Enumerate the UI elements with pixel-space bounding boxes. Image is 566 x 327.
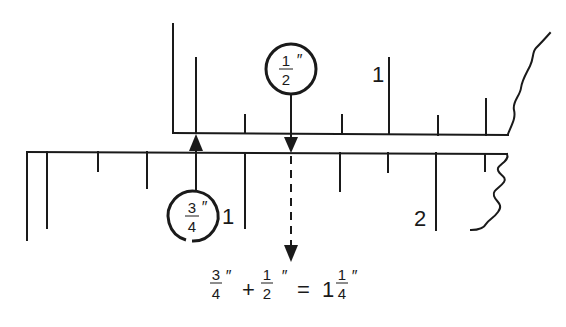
svg-text:3: 3 bbox=[188, 199, 196, 216]
svg-text:+: + bbox=[242, 277, 255, 302]
svg-text:4: 4 bbox=[188, 218, 196, 235]
dashed-result-arrow bbox=[284, 156, 298, 262]
svg-text:4: 4 bbox=[338, 285, 346, 302]
lower-ruler: 1 2 bbox=[27, 152, 508, 240]
arrow-down-icon bbox=[284, 137, 298, 153]
svg-text:1: 1 bbox=[338, 266, 346, 283]
three-quarter-callout: 3 4 ″ bbox=[168, 134, 218, 241]
arrow-up-icon bbox=[189, 134, 203, 151]
svg-text:4: 4 bbox=[212, 285, 220, 302]
svg-text:2: 2 bbox=[263, 285, 271, 302]
svg-text:″: ″ bbox=[281, 268, 288, 285]
upper-ruler: 1 bbox=[173, 24, 550, 135]
svg-text:2: 2 bbox=[282, 71, 290, 88]
upper-break-line bbox=[508, 33, 550, 134]
equation: 3 4 ″ + 1 2 ″ = 1 1 4 ″ bbox=[210, 266, 358, 302]
lower-label-1: 1 bbox=[222, 204, 234, 229]
svg-text:″: ″ bbox=[351, 268, 358, 285]
svg-text:=: = bbox=[297, 277, 310, 302]
lower-label-2: 2 bbox=[414, 206, 426, 231]
svg-text:1: 1 bbox=[322, 277, 334, 302]
svg-text:3: 3 bbox=[212, 266, 220, 283]
svg-text:1: 1 bbox=[282, 52, 290, 69]
half-inch-callout: 1 2 ″ bbox=[266, 44, 316, 153]
svg-text:1: 1 bbox=[263, 266, 271, 283]
ruler-diagram: 1 1 2 1 2 ″ 3 4 ″ bbox=[0, 0, 566, 327]
upper-label-1: 1 bbox=[372, 62, 384, 87]
lower-break-line bbox=[471, 154, 508, 230]
arrow-down-icon bbox=[284, 245, 298, 262]
svg-text:″: ″ bbox=[225, 268, 232, 285]
